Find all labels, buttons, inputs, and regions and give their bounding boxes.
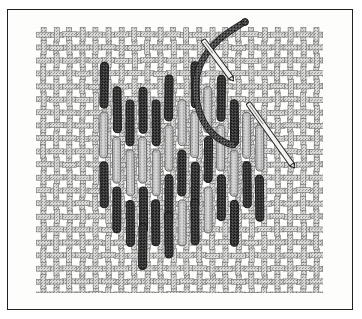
- fabric-weft-thread: [62, 305, 76, 310]
- fabric-weft-thread: [232, 45, 246, 50]
- fabric-weft-thread: [323, 227, 337, 232]
- fabric-warp-thread: [93, 171, 98, 185]
- fabric-weft-thread: [271, 188, 285, 193]
- fabric-warp-thread: [54, 157, 59, 171]
- fabric-weft-thread: [283, 201, 297, 206]
- fabric-weft-thread: [244, 84, 258, 89]
- fabric-weft-thread: [309, 279, 323, 284]
- fabric-warp-thread: [41, 171, 46, 185]
- fabric-warp-thread: [41, 287, 46, 301]
- fabric-weft-thread: [205, 71, 219, 76]
- fabric-warp-thread: [327, 301, 332, 315]
- fabric-warp-thread: [327, 53, 332, 67]
- fabric-weft-thread: [244, 305, 258, 310]
- fabric-warp-thread: [80, 300, 85, 314]
- fabric-weft-thread: [244, 58, 258, 63]
- fabric-warp-thread: [327, 40, 332, 54]
- fabric-warp-thread: [288, 261, 293, 275]
- fabric-weft-thread: [296, 32, 310, 37]
- fabric-warp-thread: [288, 287, 293, 301]
- fabric-weft-thread: [36, 266, 50, 271]
- fabric-weft-thread: [49, 279, 63, 284]
- fabric-weft-thread: [49, 227, 63, 232]
- fabric-warp-thread: [288, 300, 293, 314]
- fabric-weft-thread: [296, 292, 310, 297]
- fabric-warp-thread: [301, 145, 306, 159]
- fabric-warp-thread: [106, 262, 111, 276]
- fabric-warp-thread: [41, 40, 46, 54]
- fabric-warp-thread: [54, 183, 59, 197]
- fabric-weft-thread: [88, 266, 102, 271]
- straight-stitch-dark: [100, 62, 109, 108]
- fabric-warp-thread: [67, 196, 72, 210]
- fabric-warp-thread: [327, 210, 332, 224]
- fabric-weft-thread: [297, 58, 311, 63]
- fabric-weft-thread: [62, 162, 76, 167]
- straight-stitch-dark: [204, 137, 213, 183]
- fabric-warp-thread: [327, 170, 332, 184]
- fabric-warp-thread: [80, 132, 85, 146]
- fabric-weft-thread: [114, 305, 128, 310]
- fabric-warp-thread: [288, 235, 293, 249]
- fabric-warp-thread: [93, 300, 98, 314]
- fabric-weft-thread: [62, 266, 76, 271]
- fabric-warp-thread: [314, 301, 319, 315]
- fabric-warp-thread: [275, 300, 280, 314]
- straight-stitch-dark: [255, 175, 264, 221]
- fabric-warp-thread: [236, 300, 241, 314]
- fabric-weft-thread: [75, 45, 89, 50]
- fabric-warp-thread: [314, 131, 319, 145]
- fabric-warp-thread: [67, 92, 72, 106]
- fabric-warp-thread: [67, 287, 72, 301]
- fabric-weft-thread: [140, 305, 154, 310]
- fabric-warp-thread: [327, 236, 332, 250]
- fabric-warp-thread: [275, 249, 280, 263]
- straight-stitch-dark: [113, 87, 122, 133]
- fabric-weft-thread: [322, 45, 336, 50]
- fabric-warp-thread: [288, 105, 293, 119]
- fabric-weft-thread: [192, 305, 206, 310]
- fabric-warp-thread: [145, 300, 150, 314]
- fabric-warp-thread: [41, 118, 46, 132]
- fabric-warp-thread: [106, 209, 111, 223]
- fabric-weft-thread: [297, 305, 311, 310]
- fabric-warp-thread: [171, 275, 176, 289]
- fabric-warp-thread: [223, 40, 228, 54]
- fabric-warp-thread: [119, 300, 124, 314]
- fabric-weft-thread: [37, 32, 51, 37]
- fabric-warp-thread: [301, 196, 306, 210]
- fabric-weft-thread: [309, 45, 323, 50]
- fabric-warp-thread: [210, 288, 215, 302]
- fabric-weft-thread: [322, 253, 336, 258]
- fabric-warp-thread: [145, 40, 150, 54]
- fabric-warp-thread: [249, 288, 254, 302]
- stitch-highlight: [258, 128, 260, 168]
- fabric-weft-thread: [218, 305, 232, 310]
- fabric-weft-thread: [36, 136, 50, 141]
- fabric-warp-thread: [314, 184, 319, 198]
- fabric-weft-thread: [257, 253, 271, 258]
- fabric-warp-thread: [54, 53, 59, 67]
- fabric-warp-thread: [119, 287, 124, 301]
- fabric-weft-thread: [244, 266, 258, 271]
- fabric-weft-thread: [218, 266, 232, 271]
- fabric-warp-thread: [67, 274, 72, 288]
- straight-stitch-dark: [152, 100, 160, 146]
- fabric-warp-thread: [145, 274, 150, 288]
- fabric-weft-thread: [244, 240, 258, 245]
- fabric-weft-thread: [270, 84, 284, 89]
- stitch-highlight: [167, 128, 169, 168]
- stitch-highlight: [245, 115, 247, 155]
- fabric-weft-thread: [89, 240, 103, 245]
- fabric-warp-thread: [327, 183, 332, 197]
- fabric-warp-thread: [184, 300, 189, 314]
- fabric-warp-thread: [327, 274, 332, 288]
- fabric-weft-thread: [75, 305, 89, 310]
- fabric-weft-thread: [179, 253, 193, 258]
- fabric-weft-thread: [232, 279, 246, 284]
- fabric-weft-thread: [244, 32, 258, 37]
- fabric-weft-thread: [322, 214, 336, 219]
- fabric-warp-thread: [327, 262, 332, 276]
- fabric-weft-thread: [63, 214, 77, 219]
- fabric-warp-thread: [80, 53, 85, 67]
